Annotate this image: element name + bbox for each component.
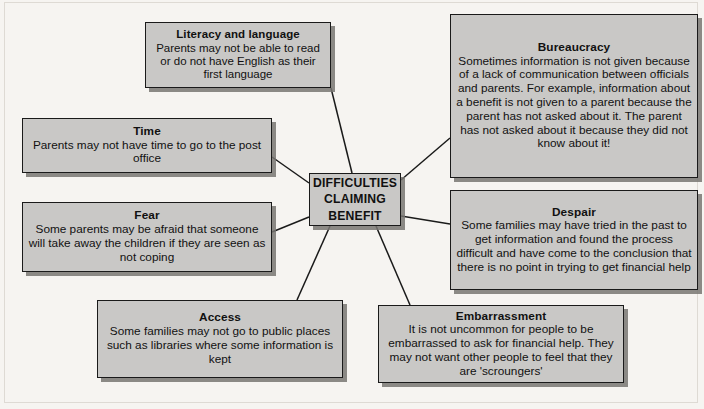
connector-time (272, 157, 309, 183)
node-access[interactable]: Access Some families may not go to publi… (97, 300, 343, 378)
center-line-1: DIFFICULTIES (313, 175, 397, 191)
center-line-3: BENEFIT (328, 208, 382, 224)
node-title: Literacy and language (176, 28, 300, 41)
node-body: It is not uncommon for people to be emba… (384, 323, 618, 378)
node-title: Time (133, 125, 161, 139)
node-title: Despair (552, 206, 596, 220)
connector-fear (272, 217, 309, 232)
node-bureaucracy[interactable]: Bureaucracy Sometimes information is not… (450, 14, 698, 178)
node-time[interactable]: Time Parents may not have time to go to … (22, 118, 272, 173)
connector-access (297, 226, 330, 300)
node-center-difficulties-claiming-benefit[interactable]: DIFFICULTIES CLAIMING BENEFIT (309, 173, 401, 226)
node-title: Embarrassment (456, 310, 546, 324)
node-body: Some parents may be afraid that someone … (28, 223, 266, 264)
node-fear[interactable]: Fear Some parents may be afraid that som… (22, 202, 272, 272)
center-line-2: CLAIMING (324, 191, 386, 207)
connector-literacy (331, 88, 352, 173)
connector-embarrassment (376, 226, 410, 305)
node-body: Sometimes information is not given becau… (456, 55, 692, 152)
node-body: Parents may not be able to read or do no… (151, 42, 325, 82)
connector-despair (401, 216, 450, 224)
node-title: Access (199, 311, 241, 325)
node-body: Some families may have tried in the past… (456, 219, 692, 274)
connector-bureaucracy (401, 138, 450, 180)
node-body: Some families may not go to public place… (103, 325, 337, 366)
node-title: Fear (134, 209, 159, 223)
mind-map-canvas: Literacy and language Parents may not be… (0, 0, 704, 409)
node-literacy-and-language[interactable]: Literacy and language Parents may not be… (145, 22, 331, 88)
node-despair[interactable]: Despair Some families may have tried in … (450, 190, 698, 290)
node-embarrassment[interactable]: Embarrassment It is not uncommon for peo… (378, 305, 624, 383)
node-body: Parents may not have time to go to the p… (28, 139, 266, 167)
node-title: Bureaucracy (538, 41, 611, 55)
